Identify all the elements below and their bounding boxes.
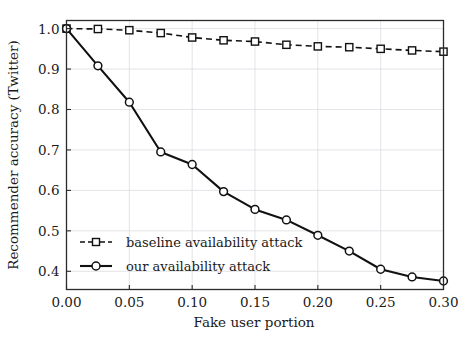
- data-point-marker: [251, 206, 259, 214]
- data-point-marker: [408, 47, 415, 54]
- data-point-marker: [283, 41, 290, 48]
- chart-figure: 0.000.050.100.150.200.250.30 0.40.50.60.…: [0, 0, 464, 341]
- data-point-marker: [126, 27, 133, 34]
- y-axis-title: Recommender accuracy (Twitter): [5, 40, 21, 270]
- x-tick-label: 0.15: [240, 294, 270, 310]
- data-point-marker: [94, 25, 101, 32]
- y-tick-label: 0.8: [38, 101, 59, 117]
- line-chart: 0.000.050.100.150.200.250.30 0.40.50.60.…: [0, 0, 464, 341]
- data-point-marker: [251, 38, 258, 45]
- x-tick-label: 0.00: [51, 294, 81, 310]
- data-point-marker: [314, 43, 321, 50]
- y-tick-label: 0.5: [38, 223, 59, 239]
- x-tick-label: 0.30: [428, 294, 458, 310]
- x-tick-label: 0.10: [177, 294, 207, 310]
- data-point-marker: [220, 188, 228, 196]
- data-point-marker: [157, 148, 165, 156]
- data-point-marker: [314, 231, 322, 239]
- data-point-marker: [377, 45, 384, 52]
- data-point-marker: [125, 98, 133, 106]
- x-tick-label: 0.20: [303, 294, 333, 310]
- data-point-marker: [283, 216, 291, 224]
- y-tick-label: 0.7: [38, 142, 59, 158]
- data-point-marker: [189, 34, 196, 41]
- y-tick-label: 0.6: [38, 182, 59, 198]
- data-point-marker: [220, 37, 227, 44]
- data-point-marker: [94, 62, 102, 70]
- y-tick-label: 0.9: [38, 61, 59, 77]
- data-point-marker: [157, 29, 164, 36]
- legend-label-baseline: baseline availability attack: [126, 235, 303, 250]
- data-point-marker: [408, 273, 416, 281]
- data-point-marker: [346, 44, 353, 51]
- y-tick-label: 0.4: [38, 263, 59, 279]
- data-point-marker: [377, 265, 385, 273]
- y-tick-label: 1.0: [38, 21, 59, 37]
- x-tick-label: 0.25: [366, 294, 396, 310]
- x-tick-label: 0.05: [114, 294, 144, 310]
- square-marker-icon: [93, 239, 100, 246]
- circle-marker-icon: [92, 262, 100, 270]
- data-point-marker: [345, 247, 353, 255]
- x-axis-title: Fake user portion: [193, 314, 314, 330]
- legend-label-ours: our availability attack: [126, 259, 270, 274]
- data-point-marker: [188, 161, 196, 169]
